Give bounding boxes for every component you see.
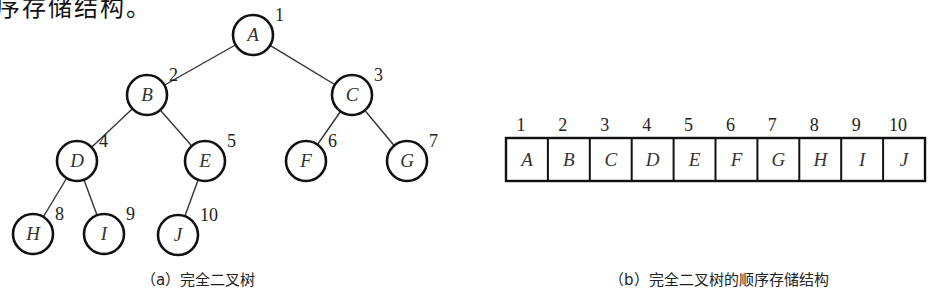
- array-index: 6: [726, 115, 735, 135]
- array-cell-d: D: [645, 149, 660, 170]
- tree-edges: [33, 35, 407, 235]
- tree-node-c: C3: [332, 65, 383, 115]
- node-label: H: [25, 223, 41, 244]
- node-label: B: [141, 84, 153, 105]
- array-index: 2: [558, 115, 567, 135]
- array-cell-h: H: [812, 149, 828, 170]
- node-label: A: [245, 24, 259, 45]
- node-label: G: [400, 150, 414, 171]
- array-index: 10: [889, 115, 907, 135]
- array-cell-e: E: [688, 149, 701, 170]
- node-index: 1: [275, 5, 284, 25]
- array-cell-b: B: [563, 149, 575, 170]
- node-index: 5: [227, 131, 236, 151]
- node-index: 10: [200, 205, 218, 225]
- node-label: C: [346, 84, 359, 105]
- node-index: 8: [55, 204, 64, 224]
- node-index: 2: [169, 65, 178, 85]
- node-index: 3: [374, 65, 383, 85]
- array-cell-c: C: [604, 149, 617, 170]
- array-index: 5: [684, 115, 693, 135]
- tree-node-a: A1: [233, 5, 284, 55]
- sequential-storage-array: A1B2C3D4E5F6G7H8I9J10: [506, 115, 925, 181]
- node-index: 6: [328, 131, 337, 151]
- tree-node-f: F6: [286, 131, 337, 181]
- tree-node-i: I9: [84, 204, 135, 254]
- array-index: 4: [642, 115, 651, 135]
- tree-nodes: A1B2C3D4E5F6G7H8I9J10: [13, 5, 438, 255]
- node-label: E: [198, 150, 211, 171]
- array-index: 7: [768, 115, 777, 135]
- node-label: F: [299, 150, 312, 171]
- tree-node-d: D4: [57, 131, 108, 181]
- tree-node-b: B2: [127, 65, 178, 115]
- caption-sequential-storage: （b）完全二叉树的顺序存储结构: [609, 268, 829, 289]
- array-cell-f: F: [730, 149, 743, 170]
- caption-complete-binary-tree: （a）完全二叉树: [141, 268, 255, 289]
- array-index: 8: [810, 115, 819, 135]
- node-index: 9: [126, 204, 135, 224]
- node-index: 4: [99, 131, 108, 151]
- array-index: 3: [600, 115, 609, 135]
- node-label: D: [69, 150, 84, 171]
- array-cell-a: A: [519, 149, 533, 170]
- tree-node-g: G7: [387, 131, 438, 181]
- node-index: 7: [429, 131, 438, 151]
- diagram-canvas: A1B2C3D4E5F6G7H8I9J10 A1B2C3D4E5F6G7H8I9…: [0, 0, 931, 294]
- array-index: 1: [516, 115, 525, 135]
- tree-node-h: H8: [13, 204, 64, 254]
- tree-node-e: E5: [185, 131, 236, 181]
- array-cell-g: G: [771, 149, 785, 170]
- array-index: 9: [852, 115, 861, 135]
- tree-node-j: J10: [158, 205, 218, 255]
